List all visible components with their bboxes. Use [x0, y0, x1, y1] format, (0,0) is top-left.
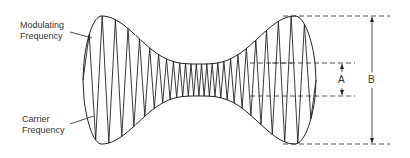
arrow-b-top — [370, 17, 374, 22]
label-line: Carrier — [22, 114, 65, 125]
modulating-frequency-label: Modulating Frequency — [20, 20, 64, 42]
arrow-a-top — [340, 64, 344, 69]
arrow-a-bottom — [340, 90, 344, 95]
carrier-leader-line — [70, 116, 94, 124]
dimension-a-label: A — [338, 74, 345, 85]
carrier-frequency-label: Carrier Frequency — [22, 114, 65, 136]
arrow-b-bottom — [370, 138, 374, 143]
label-line: Modulating — [20, 20, 64, 31]
label-line: Frequency — [20, 31, 64, 42]
carrier-wave — [83, 16, 316, 143]
dimension-b-label: B — [368, 74, 375, 85]
label-line: Frequency — [22, 125, 65, 136]
